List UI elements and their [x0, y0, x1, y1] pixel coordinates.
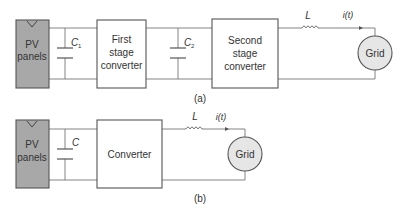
- grid-label: Grid: [366, 48, 385, 59]
- capacitor-c: C: [57, 137, 80, 159]
- grid-a: Grid: [358, 36, 392, 70]
- inductor-b: L: [186, 111, 204, 129]
- current-indicator-b: i(t): [216, 112, 229, 131]
- arrow-right-icon: [225, 127, 229, 131]
- inductor-a: L: [302, 10, 320, 28]
- second-stage-line3: converter: [224, 61, 266, 72]
- pv-panel-a: PV panels: [16, 20, 49, 88]
- diagram-a: PV panels C 1 First stage converter C 2: [16, 10, 392, 104]
- first-stage-line3: converter: [101, 60, 143, 71]
- converter-b: Converter: [97, 120, 162, 188]
- capacitor-c2: C 2: [170, 37, 195, 58]
- pv-label-line1: PV: [25, 139, 39, 150]
- c1-subscript: 1: [78, 43, 82, 49]
- pv-grid-diagram: PV panels C 1 First stage converter C 2: [0, 0, 405, 218]
- first-stage-line2: stage: [109, 47, 134, 58]
- grid-b: Grid: [228, 137, 262, 171]
- diagram-b: PV panels C Converter L i(t) Grid (b): [16, 111, 262, 204]
- c2-subscript: 2: [191, 43, 195, 49]
- inductor-label: L: [192, 111, 198, 122]
- pv-label-line1: PV: [25, 39, 39, 50]
- pv-panel-b: PV panels: [16, 120, 49, 188]
- capacitor-c1: C 1: [57, 37, 82, 58]
- second-stage-line1: Second: [228, 35, 262, 46]
- c-label: C: [72, 137, 80, 148]
- pv-label-line2: panels: [17, 51, 46, 62]
- grid-label: Grid: [236, 149, 255, 160]
- first-stage-converter: First stage converter: [97, 20, 146, 88]
- pv-label-line2: panels: [17, 152, 46, 163]
- caption-a: (a): [194, 93, 206, 104]
- arrow-right-icon: [359, 26, 363, 30]
- converter-label: Converter: [108, 149, 153, 160]
- second-stage-converter: Second stage converter: [212, 19, 278, 88]
- caption-b: (b): [194, 193, 206, 204]
- inductor-label: L: [305, 10, 311, 21]
- current-label: i(t): [343, 10, 354, 20]
- inductor-coil-icon: [302, 26, 320, 28]
- second-stage-line2: stage: [233, 48, 258, 59]
- inductor-coil-icon: [186, 127, 204, 129]
- current-indicator-a: i(t): [343, 10, 363, 30]
- first-stage-line1: First: [112, 34, 132, 45]
- current-label: i(t): [216, 112, 227, 122]
